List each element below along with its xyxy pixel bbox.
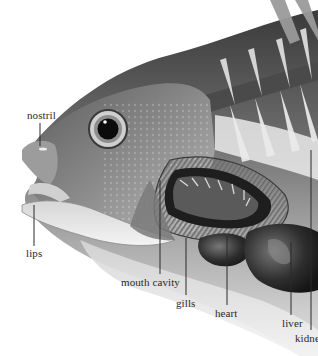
label-heart: heart [215,308,237,319]
label-liver: liver [282,318,303,329]
eye [89,110,127,148]
label-kidney: kidne [295,333,318,344]
fish-anatomy-diagram: nostril lips mouth cavity gills heart li… [0,0,318,356]
upper-jaw [22,141,58,185]
fish-illustration [0,0,318,356]
label-nostril: nostril [27,110,56,121]
label-gills: gills [176,298,195,309]
label-mouth-cavity: mouth cavity [121,277,180,288]
nostril-mark [39,148,47,151]
label-lips: lips [26,248,42,259]
